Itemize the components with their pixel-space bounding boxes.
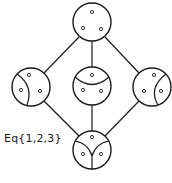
- point-icon: [27, 73, 30, 76]
- node-right: [133, 68, 171, 106]
- node-top: [73, 3, 111, 41]
- edge-top-left: [44, 37, 79, 73]
- point-icon: [81, 88, 84, 91]
- point-icon: [99, 152, 102, 155]
- point-icon: [159, 89, 162, 92]
- point-icon: [99, 89, 102, 92]
- edge-top-right: [105, 37, 139, 73]
- point-icon: [81, 152, 84, 155]
- point-icon: [152, 73, 155, 76]
- point-icon: [99, 27, 102, 30]
- partition-lattice-diagram: [0, 0, 172, 183]
- point-icon: [19, 88, 22, 91]
- point-icon: [38, 89, 41, 92]
- edge-left-bottom: [44, 101, 79, 136]
- point-icon: [90, 73, 93, 76]
- point-icon: [142, 89, 145, 92]
- point-icon: [90, 135, 93, 138]
- node-left: [12, 68, 50, 106]
- point-icon: [81, 26, 84, 29]
- node-middle: [73, 67, 111, 105]
- lattice-label: Eq{1,2,3}: [4, 132, 62, 145]
- point-icon: [90, 10, 93, 13]
- edge-right-bottom: [105, 101, 139, 136]
- node-bottom: [73, 131, 111, 169]
